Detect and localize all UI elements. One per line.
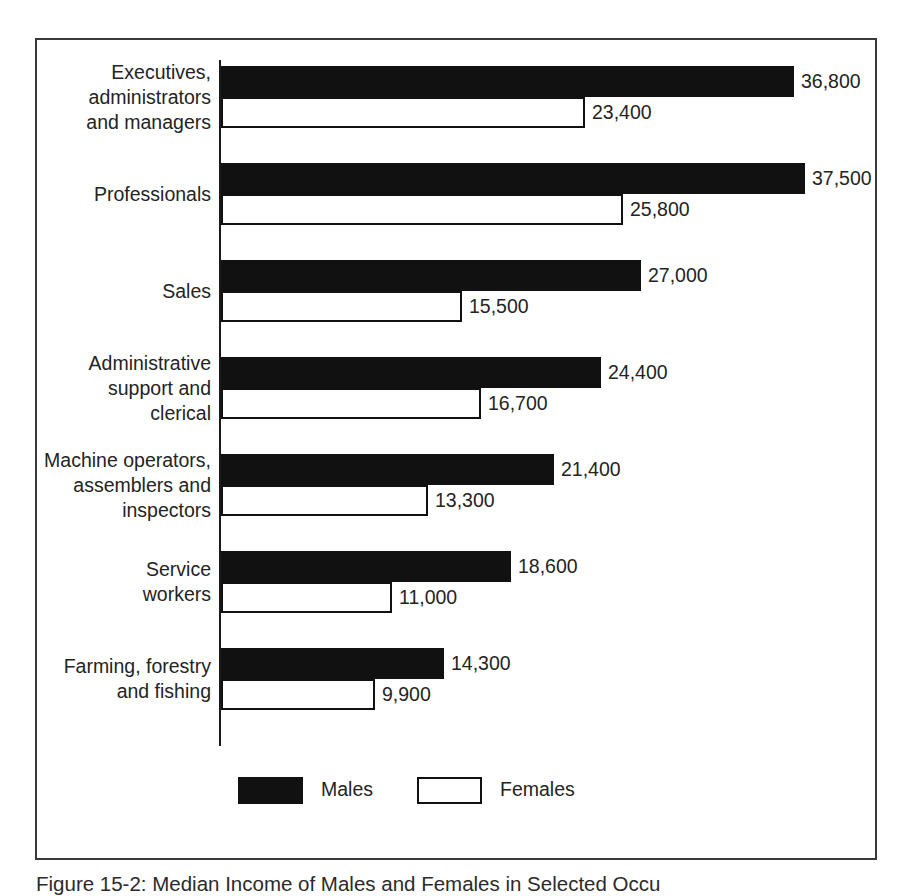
bar-value-label: 13,300 [428,491,495,511]
category-label: Professionals [0,182,211,207]
bar-row: 15,500 [221,291,881,322]
bar-row: 27,000 [221,260,881,291]
bar-row: 24,400 [221,357,881,388]
bar-males [221,454,554,485]
bar-row: 36,800 [221,66,881,97]
legend-label-males: Males [321,780,373,800]
bar-row: 18,600 [221,551,881,582]
bar-females [221,582,392,613]
legend-label-females: Females [500,780,575,800]
bar-males [221,260,641,291]
bar-males [221,551,511,582]
bar-group: Sales27,00015,500 [37,260,879,322]
bar-value-label: 15,500 [462,297,529,317]
bar-males [221,648,444,679]
bar-row: 21,400 [221,454,881,485]
legend-swatch-males-icon [238,777,303,804]
bar-row: 11,000 [221,582,881,613]
category-label: Administrative support and clerical [0,351,211,426]
bar-value-label: 9,900 [375,685,431,705]
bar-value-label: 23,400 [585,103,652,123]
bar-females [221,388,481,419]
legend-swatch-females-icon [417,777,482,804]
bar-value-label: 21,400 [554,460,621,480]
bar-females [221,679,375,710]
legend-item-females: Females [417,775,575,805]
bar-row: 16,700 [221,388,881,419]
category-label: Service workers [0,557,211,607]
category-label: Sales [0,279,211,304]
bar-row: 37,500 [221,163,881,194]
chart-plot-area: Executives, administrators and managers3… [37,40,879,758]
bar-group: Professionals37,50025,800 [37,163,879,225]
bar-females [221,97,585,128]
bar-value-label: 25,800 [623,200,690,220]
figure-frame: Executives, administrators and managers3… [35,38,877,860]
bar-value-label: 27,000 [641,266,708,286]
bar-value-label: 24,400 [601,363,668,383]
bar-value-label: 16,700 [481,394,548,414]
bar-males [221,163,805,194]
bar-females [221,485,428,516]
legend-item-males: Males [238,775,373,805]
bar-males [221,66,794,97]
bar-row: 14,300 [221,648,881,679]
bar-group: Executives, administrators and managers3… [37,66,879,128]
bar-value-label: 14,300 [444,654,511,674]
bar-females [221,194,623,225]
bar-males [221,357,601,388]
bar-value-label: 36,800 [794,72,861,92]
bar-females [221,291,462,322]
bar-group: Administrative support and clerical24,40… [37,357,879,419]
figure-caption: Figure 15-2: Median Income of Males and … [36,872,896,896]
category-label: Executives, administrators and managers [0,60,211,135]
bar-value-label: 11,000 [392,588,457,608]
bar-group: Machine operators, assemblers and inspec… [37,454,879,516]
bar-value-label: 37,500 [805,169,872,189]
bar-group: Farming, forestry and fishing14,3009,900 [37,648,879,710]
chart-legend: Males Females [37,775,879,815]
bar-row: 9,900 [221,679,881,710]
category-label: Farming, forestry and fishing [0,654,211,704]
bar-row: 13,300 [221,485,881,516]
bar-row: 23,400 [221,97,881,128]
bar-value-label: 18,600 [511,557,578,577]
category-label: Machine operators, assemblers and inspec… [0,448,211,523]
bar-group: Service workers18,60011,000 [37,551,879,613]
bar-row: 25,800 [221,194,881,225]
